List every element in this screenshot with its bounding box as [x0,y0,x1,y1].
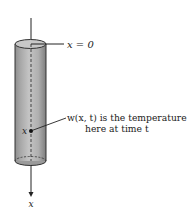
point-label: x [22,126,27,136]
rod-diagram: x = 0 x w(x, t) is the temperature here … [0,0,195,212]
axis-label: x [29,199,34,209]
origin-label: x = 0 [67,39,94,50]
annotation-line-2: here at time t [85,123,149,134]
point-marker [29,129,33,133]
axis-arrow-icon [29,192,34,197]
annotation-line-1: w(x, t) is the temperature [67,112,187,123]
rod-cylinder [15,40,46,166]
